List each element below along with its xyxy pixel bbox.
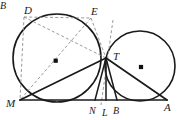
label-partial-left: B bbox=[0, 0, 6, 11]
label-M: M bbox=[5, 97, 16, 109]
label-B: B bbox=[113, 105, 119, 116]
left-circle bbox=[13, 14, 101, 102]
label-N: N bbox=[88, 105, 97, 116]
segment-D-E bbox=[24, 17, 91, 18]
label-E: E bbox=[90, 5, 98, 17]
segment-M-T bbox=[20, 58, 106, 100]
label-T: T bbox=[113, 50, 120, 62]
segment-E-T bbox=[91, 18, 106, 58]
label-L: L bbox=[101, 107, 108, 118]
segment-D-T bbox=[24, 17, 106, 58]
figure-canvas: B D E T M N L B A bbox=[0, 0, 178, 120]
label-D: D bbox=[23, 4, 32, 16]
right-circle-center-dot bbox=[139, 65, 143, 69]
solid-segments bbox=[20, 58, 167, 100]
geometry-figure: B D E T M N L B A bbox=[0, 0, 178, 120]
left-circle-center-dot bbox=[54, 59, 58, 63]
label-A: A bbox=[163, 101, 171, 113]
